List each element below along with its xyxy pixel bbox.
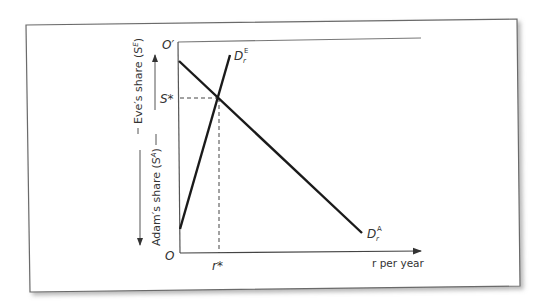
edgeworth-box-diagram: Eve′s share (SE) Adam′s share (SA) O′ O … <box>0 0 548 308</box>
s-star-label: S* <box>160 92 174 106</box>
diagram-figure: Eve′s share (SE) Adam′s share (SA) O′ O … <box>0 0 548 308</box>
x-axis-label: r per year <box>372 257 425 269</box>
adam-share-label: Adam′s share (SA) <box>150 148 163 246</box>
svg-text:D: D <box>234 49 243 63</box>
origin-label: O <box>165 249 174 263</box>
svg-text:Adam′s share (SA): Adam′s share (SA) <box>150 148 163 246</box>
r-star-label: r* <box>212 259 223 273</box>
top-origin-label: O′ <box>162 38 174 52</box>
svg-text:A: A <box>377 225 382 233</box>
svg-text:D: D <box>367 227 376 241</box>
svg-text:Eve′s share (SE): Eve′s share (SE) <box>132 38 145 124</box>
figure-frame <box>26 19 520 292</box>
svg-text:E: E <box>244 47 248 55</box>
eve-share-label: Eve′s share (SE) <box>132 38 145 124</box>
